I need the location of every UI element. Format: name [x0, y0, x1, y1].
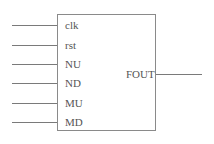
port-label-fout: FOUT: [126, 68, 155, 80]
port-label-clk: clk: [65, 19, 78, 31]
port-label-nu: NU: [65, 58, 81, 70]
input-wire-nu: [12, 64, 57, 65]
input-wire-clk: [12, 25, 57, 26]
output-wire-fout: [156, 74, 202, 75]
input-wire-nd: [12, 83, 57, 84]
input-wire-mu: [12, 103, 57, 104]
input-wire-md: [12, 122, 57, 123]
port-label-nd: ND: [65, 77, 81, 89]
port-label-mu: MU: [65, 97, 83, 109]
input-wire-rst: [12, 45, 57, 46]
port-label-rst: rst: [65, 39, 76, 51]
port-label-md: MD: [65, 116, 83, 128]
